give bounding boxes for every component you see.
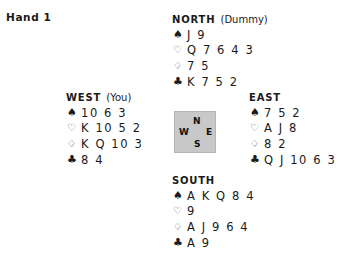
cards-clubs: 8 4	[81, 153, 104, 167]
spade-icon: ♠	[173, 189, 186, 203]
hand-title: Hand 1	[6, 11, 51, 23]
diamond-icon: ♢	[250, 137, 263, 151]
suit-row-clubs: ♣ K 7 5 2	[172, 74, 268, 90]
cards-hearts: K 10 5 2	[81, 121, 142, 135]
cards-spades: 7 5 2	[264, 106, 301, 120]
seat-role: (Dummy)	[221, 14, 268, 25]
club-icon: ♣	[173, 236, 186, 250]
cards-spades: 10 6 3	[81, 106, 127, 120]
compass-east: E	[206, 127, 212, 137]
seat-role: (You)	[106, 92, 131, 103]
club-icon: ♣	[67, 153, 80, 167]
seat-name: EAST	[249, 92, 281, 103]
compass-box: N W E S	[174, 111, 216, 153]
hand-west: WEST (You) ♠ 10 6 3 ♡ K 10 5 2 ♢ K Q 10 …	[66, 91, 143, 167]
diamond-icon: ♢	[173, 220, 186, 234]
suit-row-spades: ♠ 7 5 2	[249, 105, 336, 121]
cards-hearts: Q 7 6 4 3	[187, 43, 254, 57]
hand-north: NORTH (Dummy) ♠ J 9 ♡ Q 7 6 4 3 ♢ 7 5 ♣ …	[172, 13, 268, 89]
hand-east: EAST ♠ 7 5 2 ♡ A J 8 ♢ 8 2 ♣ Q J 10 6 3	[249, 91, 336, 167]
diamond-icon: ♢	[173, 59, 186, 73]
hand-label-north: NORTH (Dummy)	[172, 13, 268, 27]
suit-row-spades: ♠ J 9	[172, 27, 268, 43]
heart-icon: ♡	[173, 204, 186, 218]
suit-row-clubs: ♣ 8 4	[66, 152, 143, 168]
cards-diamonds: 7 5	[187, 59, 210, 73]
cards-clubs: K 7 5 2	[187, 75, 239, 89]
cards-hearts: A J 8	[264, 121, 298, 135]
cards-clubs: A 9	[187, 236, 211, 250]
spade-icon: ♠	[67, 106, 80, 120]
spade-icon: ♠	[250, 106, 263, 120]
cards-hearts: 9	[187, 204, 196, 218]
suit-row-hearts: ♡ A J 8	[249, 121, 336, 137]
cards-diamonds: 8 2	[264, 137, 287, 151]
suit-row-hearts: ♡ Q 7 6 4 3	[172, 43, 268, 59]
diamond-icon: ♢	[67, 137, 80, 151]
spade-icon: ♠	[173, 28, 186, 42]
seat-name: WEST	[66, 92, 101, 103]
suit-row-diamonds: ♢ 8 2	[249, 136, 336, 152]
cards-spades: A K Q 8 4	[187, 189, 255, 203]
hand-label-east: EAST	[249, 91, 336, 105]
cards-diamonds: K Q 10 3	[81, 137, 143, 151]
cards-spades: J 9	[187, 28, 206, 42]
hand-south: SOUTH ♠ A K Q 8 4 ♡ 9 ♢ A J 9 6 4 ♣ A 9	[172, 174, 255, 250]
hand-label-south: SOUTH	[172, 174, 255, 188]
suit-row-hearts: ♡ 9	[172, 204, 255, 220]
club-icon: ♣	[250, 153, 263, 167]
hand-label-west: WEST (You)	[66, 91, 143, 105]
suit-row-clubs: ♣ A 9	[172, 235, 255, 251]
suit-row-hearts: ♡ K 10 5 2	[66, 121, 143, 137]
suit-row-diamonds: ♢ A J 9 6 4	[172, 219, 255, 235]
cards-diamonds: A J 9 6 4	[187, 220, 249, 234]
suit-row-spades: ♠ A K Q 8 4	[172, 188, 255, 204]
heart-icon: ♡	[67, 121, 80, 135]
seat-name: NORTH	[172, 14, 215, 25]
heart-icon: ♡	[250, 121, 263, 135]
heart-icon: ♡	[173, 43, 186, 57]
suit-row-spades: ♠ 10 6 3	[66, 105, 143, 121]
compass-north: N	[193, 116, 201, 126]
club-icon: ♣	[173, 75, 186, 89]
cards-clubs: Q J 10 6 3	[264, 153, 336, 167]
compass-west: W	[179, 127, 189, 137]
suit-row-diamonds: ♢ K Q 10 3	[66, 136, 143, 152]
seat-name: SOUTH	[172, 175, 215, 186]
suit-row-clubs: ♣ Q J 10 6 3	[249, 152, 336, 168]
suit-row-diamonds: ♢ 7 5	[172, 58, 268, 74]
compass-south: S	[194, 139, 200, 149]
